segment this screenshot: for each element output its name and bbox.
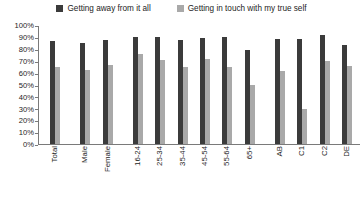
x-axis-category-text: 35-44: [179, 146, 187, 166]
x-axis-category-label: 35-44: [177, 146, 189, 196]
bar-series-2: [302, 109, 307, 144]
y-axis-tick-label: 100%: [15, 22, 34, 30]
bar-series-2: [108, 65, 113, 144]
x-axis-category-label: 45-54: [199, 146, 211, 196]
bar-series-2: [183, 67, 188, 144]
legend-item-getting-in-touch-with-my-true-self: Getting in touch with my true self: [177, 5, 307, 13]
y-axis-tick-label: 50%: [19, 82, 34, 90]
bar-series-2: [250, 85, 255, 144]
x-axis-category-text: C2: [321, 146, 329, 156]
chart-legend: Getting away from it all Getting in touc…: [0, 2, 363, 16]
x-axis-category-label: 55-64: [221, 146, 233, 196]
x-axis-category-text: C1: [298, 146, 306, 156]
x-axis-category-text: Total: [51, 146, 59, 162]
legend-item-getting-away-from-it-all: Getting away from it all: [56, 5, 150, 13]
x-axis-category-text: DE: [343, 146, 351, 157]
x-axis-category-text: Female: [104, 146, 112, 172]
bar-series-2: [325, 61, 330, 144]
x-axis-category-label: Total: [49, 146, 61, 196]
bar-series-2: [280, 71, 285, 144]
bar-series-2: [205, 59, 210, 144]
y-axis-tick-labels: 100%90%80%70%60%50%40%30%20%10%0%: [0, 26, 34, 145]
x-axis-category-label: 16-24: [132, 146, 144, 196]
x-axis-category-label: Male: [79, 146, 91, 196]
legend-label-series-2: Getting in touch with my true self: [188, 5, 307, 13]
x-axis-category-labels: TotalMaleFemale16-2425-3435-4445-5455-64…: [38, 146, 360, 198]
x-axis-category-label: 25-34: [154, 146, 166, 196]
x-axis-category-label: DE: [341, 146, 353, 196]
x-axis-category-text: 65+: [246, 146, 254, 159]
legend-label-series-1: Getting away from it all: [67, 5, 150, 13]
x-axis-category-label: C1: [296, 146, 308, 196]
y-axis-tick-label: 30%: [19, 105, 34, 113]
legend-swatch-series-2: [177, 5, 184, 12]
y-axis-tick-label: 60%: [19, 70, 34, 78]
x-axis-category-label: Female: [102, 146, 114, 196]
bar-series-2: [160, 60, 165, 144]
y-axis-tick-label: 0%: [23, 141, 34, 149]
bar-chart-figure: Getting away from it all Getting in touc…: [0, 0, 363, 198]
y-axis-tick-label: 10%: [19, 129, 34, 137]
plot-area: [38, 26, 360, 145]
bar-series-2: [227, 67, 232, 144]
legend-swatch-series-1: [56, 5, 63, 12]
bar-groups: [38, 26, 360, 144]
y-axis-tick-label: 80%: [19, 46, 34, 54]
bar-series-2: [347, 66, 352, 144]
y-axis-tick-label: 20%: [19, 117, 34, 125]
x-axis-category-text: 45-54: [201, 146, 209, 166]
bar-series-2: [55, 67, 60, 144]
x-axis-line: [38, 144, 360, 145]
y-axis-tick-label: 40%: [19, 93, 34, 101]
x-axis-category-text: 16-24: [134, 146, 142, 166]
bar-series-2: [85, 70, 90, 144]
x-axis-category-text: 55-64: [223, 146, 231, 166]
y-axis-tick-label: 90%: [19, 34, 34, 42]
x-axis-category-label: AB: [274, 146, 286, 196]
y-axis-tick-label: 70%: [19, 58, 34, 66]
x-axis-category-text: Male: [82, 146, 90, 163]
bar-series-2: [138, 54, 143, 144]
x-axis-category-label: C2: [319, 146, 331, 196]
x-axis-category-label: 65+: [244, 146, 256, 196]
x-axis-category-text: AB: [276, 146, 284, 156]
x-axis-category-text: 25-34: [156, 146, 164, 166]
